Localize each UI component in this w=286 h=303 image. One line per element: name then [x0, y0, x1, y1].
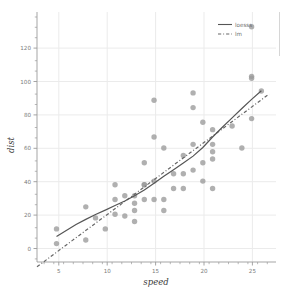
data-point: [200, 160, 205, 165]
data-point: [161, 208, 166, 213]
data-point: [54, 226, 59, 231]
data-point: [151, 98, 156, 103]
data-point: [83, 204, 88, 209]
data-point: [112, 182, 117, 187]
data-point: [210, 127, 215, 132]
data-point: [190, 167, 195, 172]
y-tick-label: 100: [20, 79, 31, 85]
data-point: [249, 74, 254, 79]
data-point: [54, 241, 59, 246]
data-point: [161, 197, 166, 202]
data-point: [171, 171, 176, 176]
data-point: [210, 156, 215, 161]
data-point: [181, 171, 186, 176]
data-point: [200, 120, 205, 125]
data-point: [181, 186, 186, 191]
data-point: [132, 219, 137, 224]
data-point: [171, 186, 176, 191]
x-tick-label: 10: [104, 268, 112, 274]
y-axis-title: dist: [6, 136, 16, 153]
data-point: [229, 123, 234, 128]
y-tick-label: 120: [20, 45, 31, 51]
data-point: [210, 186, 215, 191]
chart-figure: 0 20 40 60 80 100 120: [0, 0, 286, 303]
y-tick-label: 0: [27, 246, 31, 252]
legend-label-lm: lm: [235, 31, 242, 37]
legend-label-loess: loesss: [235, 22, 252, 28]
data-point: [210, 149, 215, 154]
data-point: [151, 197, 156, 202]
data-point: [142, 160, 147, 165]
data-point: [103, 226, 108, 231]
data-point: [151, 134, 156, 139]
data-point: [249, 116, 254, 121]
y-tick-label: 20: [24, 212, 32, 218]
panel-edge-rule: [279, 12, 280, 56]
x-tick-label: 15: [152, 268, 160, 274]
data-point: [132, 208, 137, 213]
y-tick-label: 60: [24, 145, 32, 151]
data-point: [122, 193, 127, 198]
x-axis-title: speed: [143, 277, 169, 287]
data-point: [142, 197, 147, 202]
scatter-plot-svg: 0 20 40 60 80 100 120: [0, 0, 286, 290]
x-tick-label: 20: [200, 268, 208, 274]
data-point: [190, 90, 195, 95]
data-point: [132, 200, 137, 205]
data-point: [200, 178, 205, 183]
data-point: [112, 197, 117, 202]
data-point: [122, 213, 127, 218]
data-point: [190, 142, 195, 147]
y-tick-label: 80: [24, 112, 32, 118]
data-point: [161, 145, 166, 150]
data-point: [112, 212, 117, 217]
data-point: [142, 182, 147, 187]
data-point: [83, 237, 88, 242]
plot-background: [0, 0, 286, 290]
y-tick-label: 40: [24, 179, 32, 185]
data-point: [210, 142, 215, 147]
x-tick-label: 25: [249, 268, 257, 274]
caption-strip: [0, 293, 286, 303]
x-tick-label: 5: [57, 268, 61, 274]
data-point: [239, 145, 244, 150]
data-point: [190, 105, 195, 110]
